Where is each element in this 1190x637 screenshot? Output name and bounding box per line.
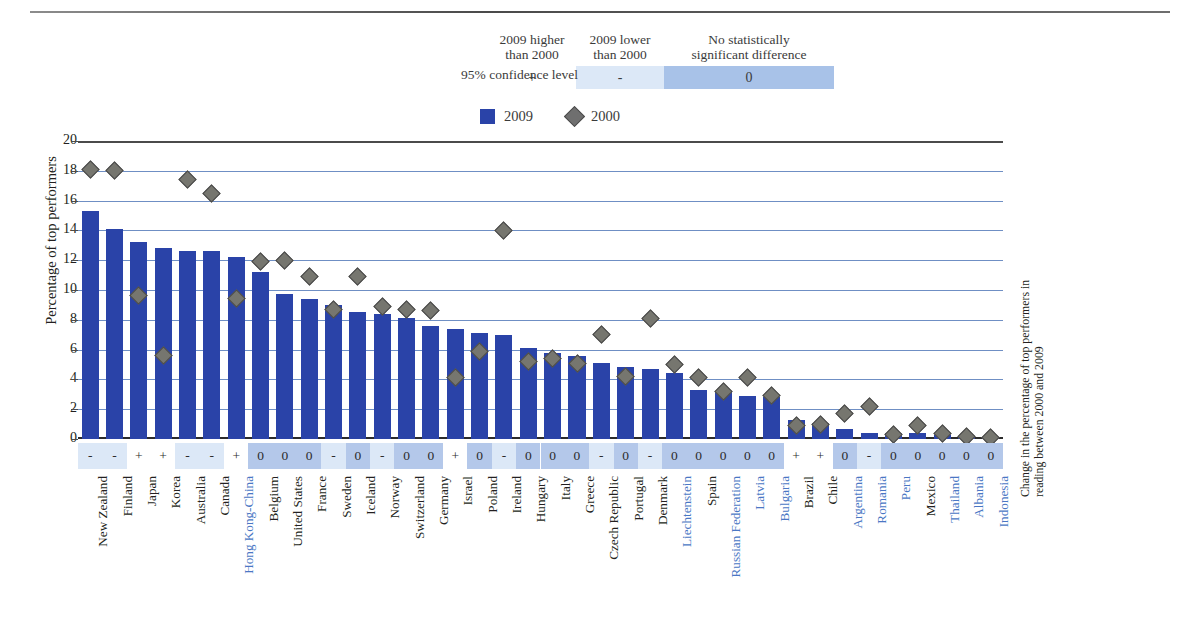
plot-area: 20181614121086420 bbox=[78, 141, 1003, 439]
marker-2000 bbox=[276, 251, 294, 269]
category-label: Spain bbox=[704, 476, 720, 506]
marker-2000 bbox=[105, 162, 123, 180]
marker-2000 bbox=[495, 221, 513, 239]
gridline bbox=[78, 201, 1003, 202]
significance-cell: 0 bbox=[394, 443, 418, 469]
category-label: Indonesia bbox=[996, 476, 1012, 527]
y-axis-tick-label: 18 bbox=[37, 162, 77, 178]
bar-2009 bbox=[593, 363, 610, 439]
series-legend: 2009 2000 bbox=[480, 108, 620, 125]
category-label: Albania bbox=[971, 476, 987, 518]
bar-2009 bbox=[155, 248, 172, 439]
significance-cell: - bbox=[175, 443, 199, 469]
marker-2000 bbox=[373, 297, 391, 315]
y-axis-tick-label: 14 bbox=[37, 221, 77, 237]
legend-item-2000: 2000 bbox=[567, 108, 620, 125]
category-label: Greece bbox=[582, 476, 598, 513]
significance-cell: 0 bbox=[735, 443, 759, 469]
bar-2009 bbox=[690, 390, 707, 439]
significance-cell: 0 bbox=[419, 443, 443, 469]
category-label: Australia bbox=[193, 476, 209, 524]
y-axis-tick-label: 2 bbox=[37, 400, 77, 416]
y-axis-tick-label: 12 bbox=[37, 251, 77, 267]
y-axis-title: Percentage of top performers bbox=[43, 116, 60, 366]
significance-cell: 0 bbox=[662, 443, 686, 469]
category-label: Hungary bbox=[533, 476, 549, 522]
category-label: Hong Kong-China bbox=[241, 476, 257, 574]
y-axis-tick bbox=[71, 409, 78, 410]
significance-cell: - bbox=[102, 443, 126, 469]
gridline bbox=[78, 171, 1003, 172]
significance-cell: + bbox=[443, 443, 467, 469]
marker-2000 bbox=[203, 184, 221, 202]
significance-cell: 0 bbox=[760, 443, 784, 469]
y-axis-tick bbox=[71, 290, 78, 291]
marker-2000 bbox=[665, 355, 683, 373]
marker-2000 bbox=[909, 416, 927, 434]
marker-2000 bbox=[422, 302, 440, 320]
bar-2009 bbox=[666, 373, 683, 439]
bar-2009 bbox=[349, 312, 366, 439]
significance-key: 95% confidence level 2009 higher than 20… bbox=[488, 22, 908, 89]
significance-cell: 0 bbox=[565, 443, 589, 469]
category-label: Russian Federation bbox=[728, 476, 744, 577]
category-label: Mexico bbox=[923, 476, 939, 516]
significance-cell: 0 bbox=[833, 443, 857, 469]
category-label: Ireland bbox=[509, 476, 525, 513]
marker-2000 bbox=[251, 252, 269, 270]
category-label: Sweden bbox=[339, 476, 355, 518]
y-axis-tick-label: 6 bbox=[37, 341, 77, 357]
category-label: Iceland bbox=[363, 476, 379, 515]
marker-2000 bbox=[178, 171, 196, 189]
marker-2000 bbox=[738, 369, 756, 387]
bar-2009 bbox=[398, 318, 415, 439]
y-axis-tick bbox=[71, 260, 78, 261]
gridline bbox=[78, 230, 1003, 231]
category-label: Brazil bbox=[801, 476, 817, 508]
bar-2009 bbox=[179, 251, 196, 439]
significance-cell: - bbox=[200, 443, 224, 469]
significance-cell: - bbox=[857, 443, 881, 469]
y-axis-tick-label: 0 bbox=[37, 430, 77, 446]
significance-cell: + bbox=[151, 443, 175, 469]
significance-cell: 0 bbox=[687, 443, 711, 469]
category-label: Argentina bbox=[850, 476, 866, 529]
significance-cell: 0 bbox=[979, 443, 1003, 469]
key-heading-none: No statistically significant difference bbox=[664, 32, 834, 62]
significance-cell: 0 bbox=[297, 443, 321, 469]
key-heading-higher: 2009 higher than 2000 bbox=[488, 32, 576, 62]
significance-cell: 0 bbox=[711, 443, 735, 469]
y-axis-tick-label: 10 bbox=[37, 281, 77, 297]
category-label: Finland bbox=[120, 476, 136, 516]
category-label: Japan bbox=[144, 476, 160, 506]
significance-key-headings: 2009 higher than 2000 2009 lower than 20… bbox=[488, 22, 908, 62]
category-label: Canada bbox=[217, 476, 233, 516]
legend-label-2009: 2009 bbox=[504, 108, 533, 125]
key-heading-line2: than 2000 bbox=[488, 47, 576, 62]
header-divider bbox=[30, 11, 1170, 13]
bar-2009 bbox=[301, 299, 318, 439]
right-axis-title: Change in the percentage of top performe… bbox=[1018, 257, 1046, 497]
y-axis-tick bbox=[71, 201, 78, 202]
bar-2009 bbox=[495, 335, 512, 439]
significance-cell: 0 bbox=[954, 443, 978, 469]
bar-2009 bbox=[106, 229, 123, 439]
marker-2000 bbox=[836, 404, 854, 422]
significance-cell: 0 bbox=[248, 443, 272, 469]
legend-label-2000: 2000 bbox=[591, 108, 620, 125]
significance-cell: 0 bbox=[467, 443, 491, 469]
category-label: Romania bbox=[874, 476, 890, 524]
marker-2000 bbox=[592, 325, 610, 343]
significance-cell: + bbox=[784, 443, 808, 469]
category-label: France bbox=[314, 476, 330, 512]
significance-cell: + bbox=[127, 443, 151, 469]
category-label: Liechtenstein bbox=[679, 476, 695, 547]
significance-cell: - bbox=[492, 443, 516, 469]
significance-cell: + bbox=[808, 443, 832, 469]
category-label: Denmark bbox=[655, 476, 671, 525]
key-heading-line2: than 2000 bbox=[576, 47, 664, 62]
significance-cell: - bbox=[589, 443, 613, 469]
y-axis-tick bbox=[71, 230, 78, 231]
category-label: Peru bbox=[898, 476, 914, 500]
bar-2009 bbox=[739, 396, 756, 439]
